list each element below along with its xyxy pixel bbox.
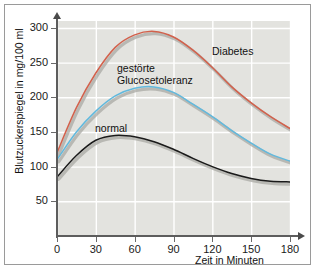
x-tick-mark [251,237,252,242]
x-tick-60: 60 [135,237,136,238]
annotation-impaired-glucose-tolerance: gestörte Glucosetoleranz [117,63,193,86]
x-tick-label: 90 [167,243,179,255]
y-tick-mark [51,63,56,64]
plot-area [57,21,290,236]
y-axis-title: Blutzuckerspiegel in mg/100 ml [13,1,25,201]
x-tick-mark [174,237,175,242]
y-tick-label: 150 [30,125,48,137]
x-tick-mark [57,237,58,242]
x-tick-0: 0 [57,237,58,238]
curve-shadow-2 [59,137,290,184]
y-tick-mark [51,167,56,168]
y-tick-mark [51,97,56,98]
y-axis-arrow-icon [53,12,61,19]
y-tick-label: 100 [30,160,48,172]
x-tick-150: 150 [251,237,252,238]
annotation-diabetes: Diabetes [212,46,253,58]
x-tick-mark [212,237,213,242]
x-tick-120: 120 [212,237,213,238]
x-tick-180: 180 [290,237,291,238]
x-tick-label: 180 [281,243,299,255]
x-axis-arrow-icon [298,232,305,240]
y-tick-mark [51,132,56,133]
x-tick-label: 30 [90,243,102,255]
curve-2 [57,135,290,182]
x-tick-label: 0 [54,243,60,255]
x-tick-mark [135,237,136,242]
y-tick-label: 50 [36,194,48,206]
x-axis-title: Zeit in Minuten [195,254,264,266]
annotation-igt-line1: gestörte [117,62,155,74]
y-tick-mark [51,201,56,202]
y-tick-label: 200 [30,90,48,102]
curves-layer [57,21,290,236]
x-tick-30: 30 [96,237,97,238]
annotation-igt-line2: Glucosetoleranz [117,74,193,86]
y-tick-label: 300 [30,21,48,33]
annotation-normal: normal [95,123,127,135]
y-tick-mark [51,28,56,29]
y-axis-line [56,17,58,238]
x-tick-label: 60 [129,243,141,255]
x-tick-mark [96,237,97,242]
x-axis-line [57,235,303,237]
y-tick-50: 50 [5,201,56,202]
x-tick-mark [290,237,291,242]
y-tick-label: 250 [30,56,48,68]
x-tick-90: 90 [174,237,175,238]
figure-frame: 50100150200250300 0306090120150180 Blutz… [4,4,311,265]
